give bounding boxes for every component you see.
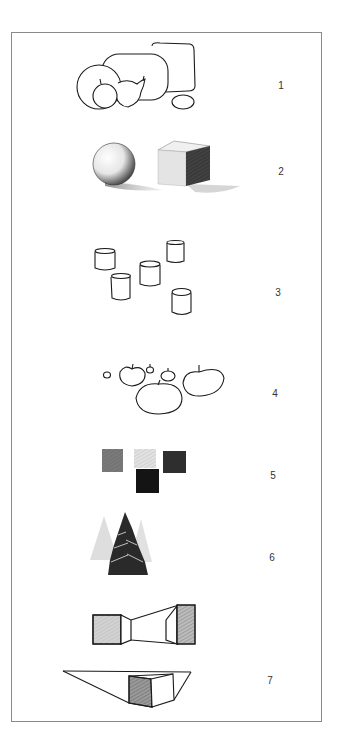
figure-label-1: 1 <box>278 81 284 91</box>
figure-label-3: 3 <box>275 288 281 298</box>
figure-label-7: 7 <box>267 676 273 686</box>
figure-label-6: 6 <box>269 553 275 563</box>
drawings-canvas <box>0 0 343 743</box>
figure-label-4: 4 <box>272 389 278 399</box>
drawing-5-tonal-squares <box>102 449 186 493</box>
drawing-1-still-life <box>77 43 195 109</box>
drawing-7-converging-boxes <box>93 605 195 644</box>
drawing-4-apples <box>104 364 225 414</box>
drawing-6-fir-trees <box>90 512 152 575</box>
drawing-3-cylinders <box>95 241 191 315</box>
drawing-2-sphere-and-cube <box>93 141 240 193</box>
figure-label-5: 5 <box>270 471 276 481</box>
figure-label-2: 2 <box>278 167 284 177</box>
drawing-7-two-point-box <box>63 671 191 707</box>
